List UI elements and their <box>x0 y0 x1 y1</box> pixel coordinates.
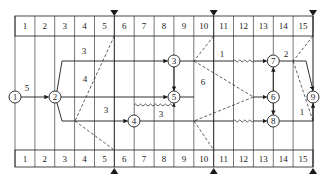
time-label: 10 <box>199 21 209 31</box>
time-label: 7 <box>142 154 147 164</box>
time-label: 12 <box>239 21 248 31</box>
bottom-time-labels: 1 2 3 4 5 6 7 8 9 10 11 12 13 14 15 <box>23 154 308 164</box>
node-3[interactable]: 3 <box>168 55 180 67</box>
node-1[interactable]: 1 <box>9 91 21 103</box>
time-label: 11 <box>219 154 228 164</box>
node-5[interactable]: 5 <box>168 91 180 103</box>
duration-label: 1 <box>220 49 225 59</box>
node-label: 3 <box>172 56 177 66</box>
node-6[interactable]: 6 <box>267 91 279 103</box>
time-label: 1 <box>23 21 28 31</box>
time-label: 10 <box>199 154 209 164</box>
grid-lines <box>15 16 313 167</box>
duration-label: 3 <box>159 109 164 119</box>
time-label: 8 <box>162 21 167 31</box>
node-2[interactable]: 2 <box>49 91 61 103</box>
duration-label: 1 <box>300 107 305 117</box>
checkpoint-up-triangle-icon <box>210 168 218 174</box>
node-8[interactable]: 8 <box>267 115 279 127</box>
node-label: 8 <box>271 116 276 126</box>
time-label: 5 <box>102 154 107 164</box>
time-label: 14 <box>279 154 289 164</box>
duration-label: 4 <box>83 74 88 84</box>
checkpoint-up-triangle-icon <box>309 168 317 174</box>
time-label: 11 <box>219 21 228 31</box>
activity-arrows <box>21 61 313 121</box>
time-label: 8 <box>162 154 167 164</box>
time-label: 2 <box>43 154 48 164</box>
duration-label: 2 <box>284 49 289 59</box>
node-label: 4 <box>132 116 137 126</box>
checkpoint-down-triangle-icon <box>210 10 218 16</box>
time-label: 15 <box>299 21 309 31</box>
node-label: 9 <box>311 92 316 102</box>
time-label: 15 <box>299 154 309 164</box>
time-label: 3 <box>62 21 67 31</box>
time-label: 14 <box>279 21 289 31</box>
duration-label: 5 <box>25 83 30 93</box>
time-label: 13 <box>259 154 269 164</box>
time-label: 6 <box>122 21 127 31</box>
node-4[interactable]: 4 <box>128 115 140 127</box>
time-label: 6 <box>122 154 127 164</box>
nodes: 1 2 3 4 5 6 7 8 <box>9 55 319 127</box>
time-label: 3 <box>62 154 67 164</box>
duration-label: 6 <box>201 77 206 87</box>
checkpoint-down-triangle-icon <box>309 10 317 16</box>
checkpoint-down-triangle-icon <box>110 10 118 16</box>
node-label: 1 <box>13 92 18 102</box>
time-label: 2 <box>43 21 48 31</box>
time-label: 4 <box>82 154 87 164</box>
node-label: 6 <box>271 92 276 102</box>
time-label: 5 <box>102 21 107 31</box>
node-9[interactable]: 9 <box>307 91 319 103</box>
time-label: 13 <box>259 21 269 31</box>
node-label: 5 <box>172 92 177 102</box>
duration-label: 3 <box>104 105 109 115</box>
time-label: 4 <box>82 21 87 31</box>
time-label: 12 <box>239 154 248 164</box>
node-label: 2 <box>53 92 58 102</box>
time-label: 9 <box>182 154 187 164</box>
network-diagram: 1 2 3 4 5 6 7 8 9 10 11 12 13 14 15 1 2 … <box>0 0 324 180</box>
time-label: 7 <box>142 21 147 31</box>
duration-label: 3 <box>82 46 87 56</box>
node-label: 7 <box>271 56 276 66</box>
duration-labels: 5 3 4 3 3 1 6 2 1 <box>25 46 305 119</box>
time-label: 9 <box>182 21 187 31</box>
checkpoint-up-triangle-icon <box>110 168 118 174</box>
top-time-labels: 1 2 3 4 5 6 7 8 9 10 11 12 13 14 15 <box>23 21 308 31</box>
node-7[interactable]: 7 <box>267 55 279 67</box>
time-label: 1 <box>23 154 28 164</box>
